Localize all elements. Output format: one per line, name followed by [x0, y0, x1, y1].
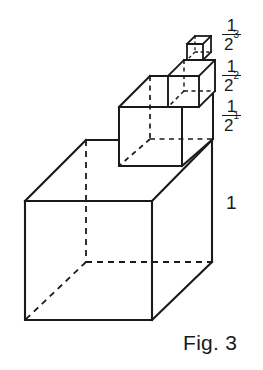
cube-4	[187, 36, 211, 60]
label-one-over-two-cubed: 1 23	[222, 18, 241, 54]
figure-root: 1 23 1 22 1 21 1 Fig. 3	[0, 0, 263, 370]
denominator-exponent: 1	[233, 110, 239, 121]
cube-staircase-diagram	[0, 0, 263, 370]
label-unit-one: 1	[226, 193, 237, 212]
label-one-over-two-squared: 1 22	[222, 59, 241, 95]
fraction-denominator: 23	[222, 35, 241, 54]
fraction-denominator: 21	[222, 116, 241, 135]
fraction-1-2-3: 1 23	[222, 18, 241, 54]
figure-caption: Fig. 3	[183, 332, 237, 353]
denominator-exponent: 2	[233, 70, 239, 81]
denominator-exponent: 3	[233, 29, 239, 40]
fraction-denominator: 22	[222, 76, 241, 95]
fraction-1-2-2: 1 22	[222, 59, 241, 95]
fraction-1-2-1: 1 21	[222, 99, 241, 135]
label-one-over-two-first: 1 21	[222, 99, 241, 135]
